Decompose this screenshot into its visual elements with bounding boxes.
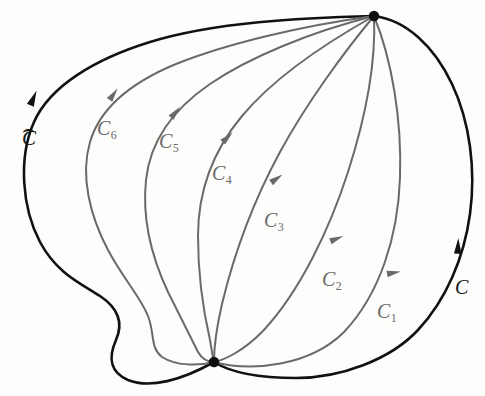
curve-c-outer [214,16,472,378]
arrowhead-c3-icon [269,172,284,186]
c-hat-group: ⌢ C [22,128,36,149]
label-c1: C1 [377,301,397,324]
label-c-outer: C [455,277,468,297]
label-c5-base: C [159,130,172,152]
contour-deformation-figure: ⌢ C C6 C5 C4 C3 C2 C1 C [0,0,485,396]
curve-c6 [86,16,374,365]
top-vertex-dot [369,11,379,21]
label-c-hat: ⌢ C [22,128,36,149]
bottom-vertex-dot [209,357,219,367]
arrowhead-c2-icon [329,233,344,244]
label-c2: C2 [322,269,342,292]
curve-c4 [198,16,374,362]
label-c3: C3 [264,210,284,233]
arrowhead-c1-icon [387,268,402,277]
label-c2-base: C [322,268,335,290]
label-c6-subscript: 6 [111,128,117,142]
label-c-outer-base: C [455,276,468,298]
label-c3-base: C [264,209,277,231]
figure-canvas [0,0,485,396]
vertex-layer [209,11,379,367]
label-c1-base: C [377,300,390,322]
arrowhead-chat-icon [27,89,40,106]
label-c5-subscript: 5 [173,141,179,155]
label-c4-base: C [212,162,225,184]
circumflex-icon: ⌢ [22,119,35,139]
label-c6: C6 [97,118,117,141]
arrowhead-couter-icon [454,238,462,254]
curve-c-hat [24,16,374,384]
label-c4: C4 [212,163,232,186]
label-c6-base: C [97,117,110,139]
label-c4-subscript: 4 [226,173,232,187]
label-c2-subscript: 2 [336,279,342,293]
label-c1-subscript: 1 [391,311,397,325]
curve-c5 [145,16,374,362]
arrowhead-c5-icon [169,105,183,120]
label-c5: C5 [159,131,179,154]
label-c3-subscript: 3 [278,220,284,234]
